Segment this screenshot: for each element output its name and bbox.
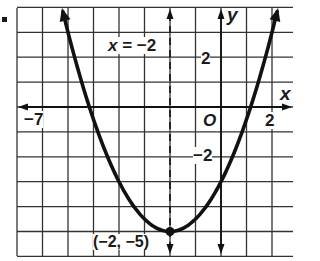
vertex-label: (−2, −5) bbox=[93, 234, 149, 250]
symmetry-label: x = −2 bbox=[108, 37, 156, 54]
y-tick-label-2: 2 bbox=[201, 50, 210, 67]
origin-label: O bbox=[203, 112, 216, 129]
vertex-point bbox=[166, 227, 175, 236]
symmetry-label-eq: = −2 bbox=[117, 36, 156, 55]
y-tick-label-neg2: −2 bbox=[193, 147, 212, 164]
y-axis-label: y bbox=[227, 5, 238, 24]
x-tick-label-2: 2 bbox=[265, 112, 274, 129]
x-axis-label: x bbox=[280, 84, 291, 103]
x-tick-label-neg7: −7 bbox=[24, 111, 43, 128]
